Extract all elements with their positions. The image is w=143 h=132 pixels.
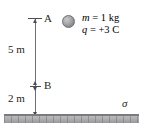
arrow-up-at-a-icon bbox=[33, 19, 37, 23]
dimension-line bbox=[35, 18, 36, 117]
charged-plane bbox=[4, 114, 139, 124]
particle-mass-label: m = 1 kg bbox=[82, 12, 119, 24]
physics-diagram: A m = 1 kg q = +3 C 5 m B 2 m σ bbox=[0, 0, 143, 132]
mass-symbol: m bbox=[82, 12, 90, 23]
mass-value: = 1 kg bbox=[90, 12, 120, 23]
sphere-icon bbox=[62, 15, 75, 28]
plane-hatching bbox=[4, 116, 139, 123]
point-a-label: A bbox=[44, 13, 52, 24]
arrow-down-at-b-icon bbox=[33, 87, 37, 91]
charge-value: = +3 C bbox=[87, 24, 119, 35]
surface-charge-label: σ bbox=[122, 98, 127, 109]
particle-properties: m = 1 kg q = +3 C bbox=[82, 12, 119, 36]
dimension-label-2m: 2 m bbox=[8, 93, 25, 104]
particle-charge-label: q = +3 C bbox=[82, 24, 119, 36]
dimension-label-5m: 5 m bbox=[8, 44, 25, 55]
arrow-up-at-b-icon bbox=[33, 81, 37, 85]
point-b-label: B bbox=[44, 80, 51, 91]
